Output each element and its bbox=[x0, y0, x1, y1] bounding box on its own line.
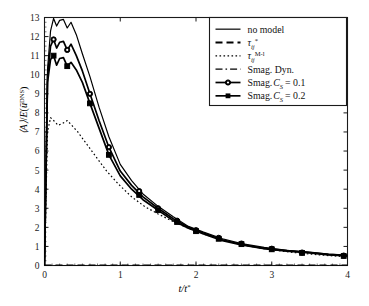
series-marker-square bbox=[65, 64, 70, 69]
y-tick-label: 1 bbox=[35, 242, 40, 252]
y-tick-label: 0 bbox=[35, 261, 40, 271]
y-axis-label-e: E bbox=[18, 111, 29, 117]
y-tick-label: 4 bbox=[35, 185, 40, 195]
legend-tau-sup: * bbox=[255, 37, 258, 44]
x-axis-label-star: * bbox=[187, 283, 190, 290]
legend-label-4[interactable]: Smag.CS= 0.1 bbox=[248, 77, 306, 89]
series-marker-circle-inner bbox=[138, 190, 140, 192]
legend-tau-sup: M-l bbox=[255, 50, 265, 57]
x-axis-label-text: t/t bbox=[178, 283, 187, 294]
y-tick-label: 10 bbox=[30, 70, 40, 80]
x-tick-label: 1 bbox=[118, 270, 123, 280]
series-marker-square bbox=[88, 101, 93, 106]
y-axis-label-a: ⟨A⟩ bbox=[18, 120, 29, 134]
y-axis-label-sup: DNS bbox=[18, 90, 25, 103]
y-tick-label: 13 bbox=[30, 13, 40, 23]
y-axis-label-slash: / bbox=[18, 118, 29, 121]
y-tick-label: 9 bbox=[35, 89, 40, 99]
legend-label-3[interactable]: Smag. Dyn. bbox=[248, 64, 295, 75]
y-tick-label: 5 bbox=[35, 166, 40, 176]
y-tick-label: 8 bbox=[35, 108, 40, 118]
legend-smag-value: = 0.2 bbox=[285, 90, 305, 101]
x-tick-label: 4 bbox=[345, 270, 350, 280]
y-axis-label-open: ( bbox=[18, 108, 29, 111]
series-marker-square bbox=[51, 53, 56, 58]
legend-label-0[interactable]: no model bbox=[248, 24, 285, 35]
y-tick-label: 3 bbox=[35, 204, 40, 214]
y-tick-label: 11 bbox=[30, 51, 39, 61]
series-marker-circle-inner bbox=[89, 93, 91, 95]
series-line-3 bbox=[45, 118, 348, 266]
series-marker-circle-inner bbox=[108, 146, 110, 148]
y-axis-label-close: ) bbox=[18, 87, 29, 90]
legend-marker-square bbox=[226, 93, 231, 98]
legend-smag-prefix: Smag. bbox=[248, 90, 273, 101]
y-tick-label: 2 bbox=[35, 223, 40, 233]
y-axis-label: ⟨A⟩/E(ūDNS) bbox=[18, 36, 29, 186]
legend-smag-value: = 0.1 bbox=[285, 77, 305, 88]
y-tick-label: 7 bbox=[35, 127, 40, 137]
series-marker-circle-inner bbox=[52, 38, 54, 40]
series-marker-square bbox=[156, 208, 161, 213]
y-tick-label: 6 bbox=[35, 146, 40, 156]
x-tick-label: 3 bbox=[269, 270, 274, 280]
y-axis-label-ubar: ū bbox=[18, 103, 29, 108]
legend-smag-prefix: Smag. bbox=[248, 77, 273, 88]
legend-label-5[interactable]: Smag.CS= 0.2 bbox=[248, 90, 306, 102]
y-tick-label: 12 bbox=[30, 32, 40, 42]
series-marker-circle-inner bbox=[66, 49, 68, 51]
chart-canvas: 01234012345678910111213no modelτij*τijM-… bbox=[0, 0, 369, 306]
series-marker-square bbox=[106, 152, 111, 157]
x-tick-label: 2 bbox=[194, 270, 199, 280]
x-axis-label: t/t* bbox=[0, 283, 369, 294]
x-tick-label: 0 bbox=[42, 270, 47, 280]
figure-container: 01234012345678910111213no modelτij*τijM-… bbox=[0, 0, 369, 306]
legend-marker-circle-inner bbox=[227, 81, 229, 83]
series-marker-square bbox=[137, 193, 142, 198]
